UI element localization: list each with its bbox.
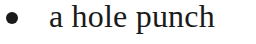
list-item: a hole punch <box>0 0 256 44</box>
list-item-text: a hole punch <box>49 0 215 36</box>
bullet-icon <box>6 12 18 24</box>
